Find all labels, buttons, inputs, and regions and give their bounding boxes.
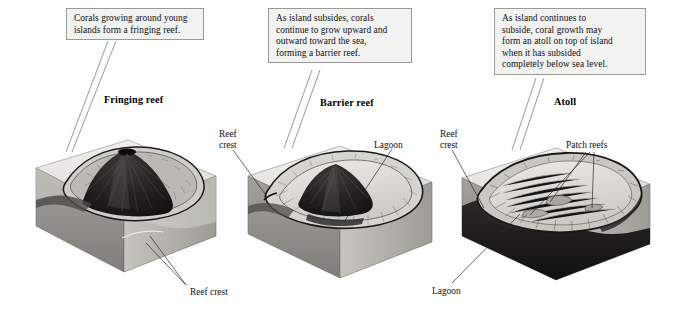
callout-atoll: As island continues to subside, coral gr… [494,8,646,75]
label-lagoon-barrier: Lagoon [374,140,403,151]
callout-line: Corals growing around young [74,13,197,25]
callout-line: subside, coral growth may [502,25,639,37]
label-patch-reefs: Patch reefs [566,140,607,151]
block-diagram-barrier-reef [248,146,432,278]
stage-title-fringing-reef: Fringing reef [104,94,163,105]
callout-barrier-reef: As island subsides, corals continue to g… [268,8,412,63]
callout-line: As island continues to [502,13,639,25]
label-lagoon-atoll: Lagoon [432,286,461,297]
stage-title-atoll: Atoll [554,96,576,107]
callout-line: completely below sea level. [502,59,639,71]
label-reef-crest-barrier-line1: Reef [219,129,237,140]
label-reef-crest-barrier-line2: crest [219,140,237,151]
block-diagram-fringing-reef [36,140,216,272]
stage-title-barrier-reef: Barrier reef [320,97,374,108]
callout-line: forming a barrier reef. [276,48,405,60]
callout-line: form an atoll on top of island [502,36,639,48]
label-reef-crest-atoll-line2: crest [440,140,458,151]
block-diagram-atoll [462,148,650,280]
callout-line: islands form a fringing reef. [74,25,197,37]
callout-fringing-reef: Corals growing around young islands form… [66,8,204,40]
label-reef-crest-atoll-line1: Reef [440,129,458,140]
callout-line: continue to grow upward and [276,25,405,37]
callout-line: when it has subsided [502,48,639,60]
diagram-canvas: Corals growing around young islands form… [0,0,677,314]
callout-line: outward toward the sea, [276,36,405,48]
callout-line: As island subsides, corals [276,13,405,25]
label-reef-crest-fringing: Reef crest [190,287,228,298]
